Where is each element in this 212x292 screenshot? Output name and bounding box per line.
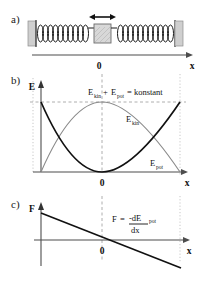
conservation-ekin-sub: kin [94, 93, 101, 99]
panel-a-letter: a) [11, 13, 20, 26]
panel-a-origin-label: 0 [97, 61, 102, 71]
left-spring [38, 25, 95, 42]
panel-b-origin-label: 0 [100, 178, 105, 188]
energy-conservation-equation: E kin + E pot = konstant [88, 87, 163, 99]
panel-c-x-axis-label: x [187, 246, 192, 256]
panel-c-letter: c) [11, 198, 20, 211]
panel-c-y-axis-label: F [29, 204, 35, 214]
panel-a-x-axis-label: x [190, 61, 195, 71]
formula-numerator-sub: pot [149, 218, 157, 224]
figure-root: a) [0, 0, 212, 292]
panel-b-y-axis-label: E [29, 82, 35, 92]
formula-numerator: -dE [129, 213, 141, 223]
panel-b-y-axis [38, 80, 44, 172]
panel-b-letter: b) [11, 74, 21, 87]
left-wall [28, 21, 36, 46]
panel-a-x-axis [32, 52, 193, 58]
panel-c-x-axis [34, 237, 190, 243]
panel-a: a) [11, 13, 195, 71]
panel-c: c) F 0 x F = -dE p [11, 196, 192, 268]
double-arrow-icon [89, 14, 116, 20]
potential-label-sub: pot [156, 164, 164, 170]
conservation-plus: + [103, 87, 108, 97]
right-spring [111, 25, 174, 42]
panel-c-origin-label: 0 [100, 246, 105, 256]
potential-energy-label: E pot [150, 158, 164, 170]
conservation-epot-sub: pot [117, 93, 125, 99]
formula-equals: = [120, 214, 125, 224]
potential-label-main: E [150, 158, 155, 168]
kinetic-label-sub: kin [132, 120, 139, 126]
conservation-ekin: E [88, 87, 93, 97]
conservation-epot: E [111, 87, 116, 97]
potential-energy-curve [41, 102, 180, 172]
formula-lhs: F [112, 214, 117, 224]
panel-b: b) E 0 x [11, 74, 190, 188]
panel-c-y-axis [38, 202, 44, 266]
formula-denominator: dx [131, 225, 140, 235]
force-formula: F = -dE pot dx [112, 213, 157, 235]
panel-b-x-axis-label: x [185, 178, 190, 188]
conservation-equals: = konstant [127, 87, 163, 97]
right-wall [175, 21, 183, 46]
kinetic-label-main: E [126, 114, 131, 124]
kinetic-energy-curve [41, 102, 180, 172]
